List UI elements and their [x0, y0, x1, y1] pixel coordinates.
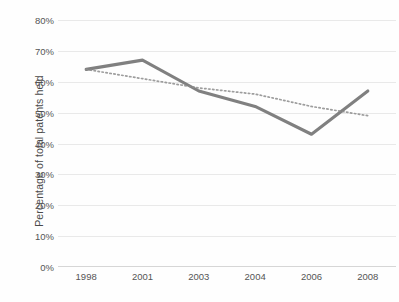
- y-axis-tick-label: 50%: [20, 107, 54, 118]
- x-axis-tick-label: 2001: [132, 271, 153, 282]
- x-axis-tick-label: 2006: [301, 271, 322, 282]
- series-layer: [58, 20, 396, 267]
- y-axis-tick-label: 40%: [20, 138, 54, 149]
- y-axis-tick-label: 60%: [20, 76, 54, 87]
- y-axis-tick-label: 10%: [20, 231, 54, 242]
- y-axis-tick-label: 80%: [20, 15, 54, 26]
- plot-area: [58, 20, 396, 267]
- x-axis-tick-label: 2003: [188, 271, 209, 282]
- x-axis-tick-label: 1998: [76, 271, 97, 282]
- y-axis-tick-label: 70%: [20, 45, 54, 56]
- x-axis-tick-label: 2008: [357, 271, 378, 282]
- line-chart: Percentage of total patents held 0%10%20…: [0, 0, 399, 302]
- data-series-line: [86, 60, 368, 134]
- x-axis-tick-label: 2004: [245, 271, 266, 282]
- y-axis-tick-label: 20%: [20, 200, 54, 211]
- trendline-series: [86, 69, 368, 115]
- y-axis-tick-label: 0%: [20, 262, 54, 273]
- y-axis-tick-labels: 0%10%20%30%40%50%60%70%80%: [18, 0, 54, 302]
- y-axis-tick-label: 30%: [20, 169, 54, 180]
